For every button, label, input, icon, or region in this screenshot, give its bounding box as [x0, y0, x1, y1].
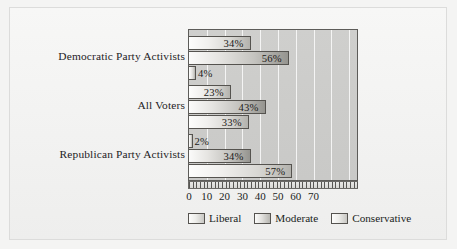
- axis-minor-tick: [288, 182, 289, 188]
- legend-swatch-conservative-icon: [331, 213, 348, 224]
- gridline-70: [314, 30, 315, 180]
- axis-minor-tick: [302, 182, 303, 188]
- axis-minor-tick: [207, 182, 208, 188]
- legend-item-moderate: Moderate: [254, 212, 318, 224]
- axis-minor-tick: [313, 182, 314, 188]
- category-label-democratic-party-activists: Democratic Party Activists: [20, 50, 185, 62]
- axis-minor-tick: [328, 182, 329, 188]
- axis-minor-tick: [317, 182, 318, 188]
- axis-minor-tick: [321, 182, 322, 188]
- axis-minor-tick: [211, 182, 212, 188]
- x-tick-label-60: 60: [290, 190, 301, 202]
- axis-minor-tick: [233, 182, 234, 188]
- x-tick-label-40: 40: [255, 190, 266, 202]
- legend-label-moderate: Moderate: [275, 212, 318, 224]
- axis-minor-tick: [193, 182, 194, 188]
- bar-value-democratic-liberal: 34%: [223, 38, 243, 49]
- axis-minor-tick: [273, 182, 274, 188]
- axis-minor-tick: [240, 182, 241, 188]
- bar-republican-conservative: 57%: [188, 164, 292, 178]
- axis-minor-tick: [262, 182, 263, 188]
- axis-minor-tick: [269, 182, 270, 188]
- bar-republican-liberal: 2%: [188, 134, 193, 148]
- axis-minor-tick: [350, 182, 351, 188]
- category-label-column: Democratic Party Activists All Voters Re…: [20, 28, 185, 180]
- axis-minor-tick: [324, 182, 325, 188]
- bar-all-voters-liberal: 23%: [188, 85, 231, 99]
- axis-minor-tick: [346, 182, 347, 188]
- axis-minor-tick: [189, 182, 190, 188]
- axis-minor-tick: [244, 182, 245, 188]
- axis-minor-tick: [247, 182, 248, 188]
- bar-democratic-liberal: 34%: [188, 36, 251, 50]
- axis-minor-tick: [251, 182, 252, 188]
- axis-minor-tick: [229, 182, 230, 188]
- axis-minor-tick: [284, 182, 285, 188]
- bar-value-democratic-conservative: 4%: [198, 68, 213, 79]
- axis-minor-tick: [200, 182, 201, 188]
- category-label-all-voters: All Voters: [20, 99, 185, 111]
- axis-minor-tick: [237, 182, 238, 188]
- x-tick-label-30: 30: [237, 190, 248, 202]
- x-tick-label-0: 0: [186, 190, 192, 202]
- bar-all-voters-conservative: 33%: [188, 115, 249, 129]
- axis-minor-tick: [306, 182, 307, 188]
- axis-minor-tick: [204, 182, 205, 188]
- axis-minor-tick: [335, 182, 336, 188]
- axis-minor-tick: [226, 182, 227, 188]
- bar-all-voters-moderate: 43%: [188, 100, 266, 114]
- legend-label-conservative: Conservative: [352, 212, 411, 224]
- axis-minor-tick: [332, 182, 333, 188]
- legend-swatch-moderate-icon: [254, 213, 271, 224]
- axis-minor-tick: [215, 182, 216, 188]
- chart-figure: Democratic Party Activists All Voters Re…: [0, 0, 457, 249]
- axis-minor-tick: [343, 182, 344, 188]
- bar-value-all-voters-moderate: 43%: [238, 102, 258, 113]
- axis-minor-tick: [255, 182, 256, 188]
- axis-minor-tick: [258, 182, 259, 188]
- bar-value-democratic-moderate: 56%: [262, 53, 282, 64]
- bar-democratic-conservative: 4%: [188, 66, 196, 80]
- x-tick-label-50: 50: [273, 190, 284, 202]
- legend-swatch-liberal-icon: [188, 213, 205, 224]
- bar-value-all-voters-conservative: 33%: [222, 117, 242, 128]
- axis-minor-tick: [291, 182, 292, 188]
- x-axis: [188, 181, 358, 189]
- bar-democratic-moderate: 56%: [188, 51, 289, 65]
- bar-value-all-voters-liberal: 23%: [204, 87, 224, 98]
- axis-minor-tick: [295, 182, 296, 188]
- axis-minor-tick: [299, 182, 300, 188]
- axis-minor-tick: [310, 182, 311, 188]
- axis-minor-tick: [280, 182, 281, 188]
- axis-minor-tick: [222, 182, 223, 188]
- gridline-80: [331, 30, 332, 180]
- bar-value-republican-conservative: 57%: [265, 166, 285, 177]
- axis-minor-tick: [196, 182, 197, 188]
- bar-republican-moderate: 34%: [188, 149, 251, 163]
- legend-item-liberal: Liberal: [188, 212, 241, 224]
- x-tick-label-70: 70: [308, 190, 319, 202]
- gridline-60: [296, 30, 297, 180]
- x-tick-label-10: 10: [201, 190, 212, 202]
- category-label-republican-party-activists: Republican Party Activists: [20, 148, 185, 160]
- axis-minor-tick: [354, 182, 355, 188]
- axis-minor-tick: [357, 182, 358, 188]
- axis-minor-tick: [218, 182, 219, 188]
- bar-value-republican-moderate: 34%: [223, 151, 243, 162]
- legend-label-liberal: Liberal: [209, 212, 241, 224]
- plot-area: 34% 56% 4% 23% 43% 33% 2% 34% 57%: [188, 29, 358, 181]
- axis-minor-tick: [266, 182, 267, 188]
- bar-value-republican-liberal: 2%: [195, 136, 210, 147]
- x-axis-tick-labels: 0 10 20 30 40 50 60 70: [180, 190, 370, 206]
- axis-minor-tick: [277, 182, 278, 188]
- chart-legend: Liberal Moderate Conservative: [188, 209, 403, 227]
- axis-minor-tick: [339, 182, 340, 188]
- legend-item-conservative: Conservative: [331, 212, 411, 224]
- gridline-90: [349, 30, 350, 180]
- x-tick-label-20: 20: [219, 190, 230, 202]
